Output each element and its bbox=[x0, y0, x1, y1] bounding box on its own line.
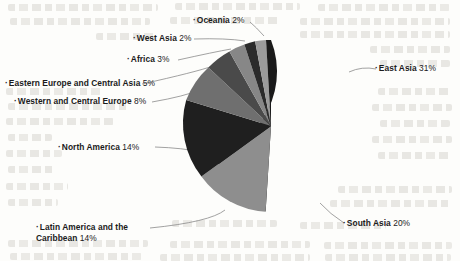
pie-label-south-asia: ·South Asia 20% bbox=[343, 218, 410, 229]
pie-label-west-asia: ·West Asia 2% bbox=[133, 33, 191, 44]
label-percent: 14% bbox=[80, 233, 97, 243]
label-bullet: · bbox=[375, 63, 378, 73]
label-bullet: · bbox=[193, 15, 196, 25]
label-percent: 31% bbox=[419, 63, 436, 73]
label-percent: 14% bbox=[122, 142, 139, 152]
label-name: Latin America and the bbox=[40, 222, 128, 232]
pie-label-north-america: ·North America 14% bbox=[58, 142, 139, 153]
figure-page: ·East Asia 31% ·South Asia 20% ·Latin Am… bbox=[0, 0, 460, 261]
label-name: Western and Central Europe bbox=[18, 96, 132, 106]
pie-chart-figure: ·East Asia 31% ·South Asia 20% ·Latin Am… bbox=[0, 0, 460, 261]
label-bullet: · bbox=[58, 142, 61, 152]
leader-line-west-asia bbox=[194, 39, 245, 41]
label-percent: 2% bbox=[179, 33, 191, 43]
label-name: West Asia bbox=[137, 33, 177, 43]
pie-label-oceania: ·Oceania 2% bbox=[193, 15, 244, 26]
pie-slices bbox=[183, 40, 277, 212]
pie-label-east-asia: ·East Asia 31% bbox=[375, 63, 436, 74]
leader-line-oceania bbox=[250, 22, 264, 36]
label-name-line2: Caribbean bbox=[36, 233, 77, 243]
pie-label-latin-america-caribbean: ·Latin America and the Caribbean 14% bbox=[36, 222, 146, 244]
label-percent: 8% bbox=[134, 96, 146, 106]
label-name: Eastern Europe and Central Asia bbox=[9, 78, 141, 88]
label-bullet: · bbox=[133, 33, 136, 43]
label-name: North America bbox=[62, 142, 120, 152]
label-bullet: · bbox=[36, 222, 39, 232]
label-name: Africa bbox=[131, 54, 155, 64]
label-bullet: · bbox=[343, 218, 346, 228]
label-percent: 3% bbox=[157, 54, 169, 64]
label-name: East Asia bbox=[379, 63, 417, 73]
label-percent: 5% bbox=[143, 78, 155, 88]
label-name: South Asia bbox=[347, 218, 391, 228]
label-percent: 20% bbox=[393, 218, 410, 228]
pie-label-western-central-europe: ·Western and Central Europe 8% bbox=[14, 96, 146, 107]
label-percent: 2% bbox=[232, 15, 244, 25]
label-bullet: · bbox=[127, 54, 130, 64]
pie-label-africa: ·Africa 3% bbox=[127, 54, 170, 65]
leader-line-east-asia bbox=[349, 68, 376, 72]
label-bullet: · bbox=[5, 78, 8, 88]
leader-line-south-asia bbox=[320, 203, 344, 223]
label-name: Oceania bbox=[197, 15, 230, 25]
leader-line-latin-america bbox=[150, 210, 225, 228]
pie-label-eastern-europe-central-asia: ·Eastern Europe and Central Asia 5% bbox=[5, 78, 155, 89]
label-bullet: · bbox=[14, 96, 17, 106]
